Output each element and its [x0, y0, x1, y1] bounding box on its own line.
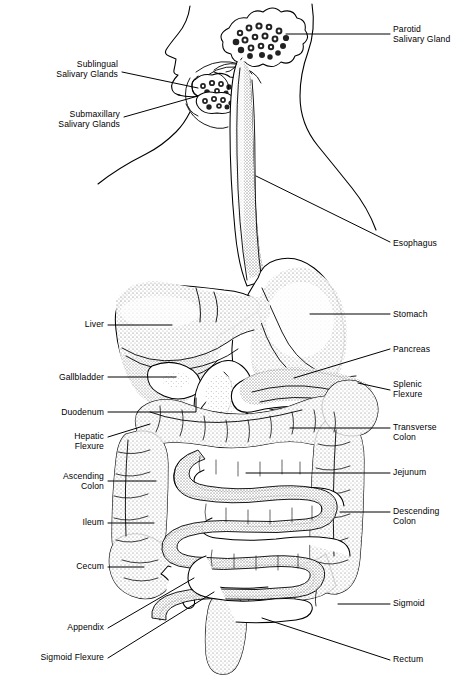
label-descending-colon: Descending Colon: [393, 506, 439, 526]
digestive-system-diagram: Parotid Salivary Gland Sublingual Saliva…: [0, 0, 474, 680]
label-duodenum: Duodenum: [0, 407, 104, 417]
label-jejunum: Jejunum: [393, 467, 426, 477]
label-submaxillary-salivary-glands: Submaxillary Salivary Glands: [0, 109, 120, 129]
label-ileum: Ileum: [0, 517, 104, 527]
label-sigmoid: Sigmoid: [393, 598, 425, 608]
label-cecum: Cecum: [0, 561, 104, 571]
label-transverse-colon: Transverse Colon: [393, 422, 437, 442]
label-rectum: Rectum: [393, 654, 423, 664]
label-hepatic-flexure: Hepatic Flexure: [0, 431, 104, 451]
label-sublingual-salivary-glands: Sublingual Salivary Glands: [0, 59, 118, 79]
anatomy-illustration: [0, 0, 474, 680]
label-sigmoid-flexure: Sigmoid Flexure: [0, 652, 104, 662]
label-stomach: Stomach: [393, 309, 428, 319]
label-liver: Liver: [0, 319, 104, 329]
label-parotid-salivary-gland: Parotid Salivary Gland: [393, 24, 450, 44]
label-gallbladder: Gallbladder: [0, 372, 104, 382]
label-splenic-flexure: Splenic Flexure: [393, 379, 422, 399]
label-esophagus: Esophagus: [393, 238, 437, 248]
label-ascending-colon: Ascending Colon: [0, 471, 104, 491]
label-appendix: Appendix: [0, 622, 104, 632]
label-pancreas: Pancreas: [393, 344, 430, 354]
